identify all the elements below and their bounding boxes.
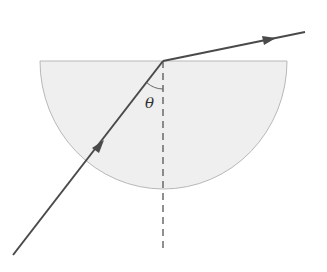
angle-theta-label: θ xyxy=(145,94,154,112)
refraction-diagram: θ xyxy=(0,0,327,272)
refracted-ray xyxy=(163,32,305,61)
